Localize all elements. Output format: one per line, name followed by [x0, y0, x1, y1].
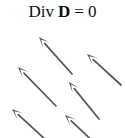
arrow-shaft [18, 115, 47, 138]
arrow-top-middle [39, 37, 72, 74]
vector-field-plot [0, 0, 125, 138]
divergence-figure: DivD=0 [0, 0, 125, 138]
arrow-bottom-left [12, 109, 47, 138]
arrow-shaft [71, 121, 100, 138]
arrow-shaft [24, 73, 56, 106]
arrow-center [69, 82, 99, 119]
arrow-shaft [74, 89, 99, 119]
arrow-shaft [93, 60, 121, 85]
arrow-shaft [45, 43, 72, 74]
arrow-middle-left [18, 67, 56, 106]
arrow-bottom-middle [65, 115, 100, 138]
arrow-top-right [87, 54, 121, 85]
